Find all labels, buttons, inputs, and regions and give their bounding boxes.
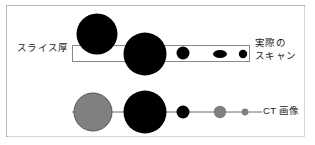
actual-scan-label-line2: スキャン [255,50,296,63]
scan-object-2 [124,33,167,76]
ct-object-3 [177,106,190,119]
ct-object-5 [242,109,249,116]
ct-object-4 [214,106,226,118]
actual-scan-label: 実際の スキャン [255,37,296,62]
actual-scan-row [73,14,250,76]
scan-object-5 [239,50,247,58]
ct-object-1 [74,93,112,131]
ct-object-2 [124,91,167,134]
scan-object-1 [77,14,118,55]
scan-object-4 [213,50,227,58]
scan-object-3 [177,47,190,60]
slice-thickness-label: スライス厚 [17,42,69,55]
ct-image-label: CT 画像 [263,105,300,118]
figure-canvas: スライス厚 実際の スキャン CT 画像 [0,0,315,145]
actual-scan-label-line1: 実際の [255,37,296,50]
ct-image-row [72,91,262,134]
slice-thickness-diagram [0,0,315,145]
